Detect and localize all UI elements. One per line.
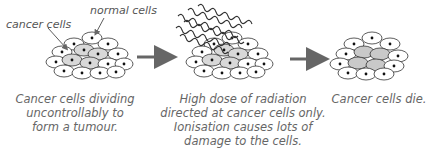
tumour-cell-cluster — [46, 32, 133, 79]
caption-line: Ionisation causes lots of — [158, 120, 328, 134]
cancer-cells-pointer — [48, 28, 66, 48]
caption-line: High dose of radiation — [158, 92, 328, 106]
normal-cells-label: normal cells — [90, 4, 157, 17]
stage-1-caption: Cancer cells dividing uncontrollably to … — [0, 92, 150, 134]
dead-cell-cluster — [330, 32, 408, 80]
cancer-cells-label: cancer cells — [6, 18, 71, 31]
caption-line: uncontrollably to — [0, 106, 150, 120]
stage-2-caption: High dose of radiation directed at cance… — [158, 92, 328, 148]
caption-line: directed at cancer cells only. — [158, 106, 328, 120]
caption-line: Cancer cells die. — [325, 92, 433, 106]
stage-3-caption: Cancer cells die. — [325, 92, 433, 106]
caption-line: form a tumour. — [0, 120, 150, 134]
caption-line: Cancer cells dividing — [0, 92, 150, 106]
normal-cells-pointer — [96, 18, 104, 33]
caption-line: damage to the cells. — [158, 134, 328, 148]
